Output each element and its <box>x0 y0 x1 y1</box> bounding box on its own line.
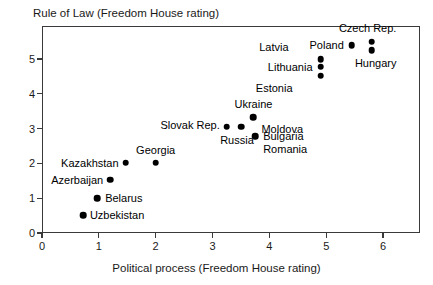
data-point-label: Georgia <box>136 144 175 155</box>
data-point-label: Hungary <box>355 58 397 69</box>
x-tick-label: 6 <box>380 240 386 252</box>
data-point <box>252 133 259 140</box>
data-point <box>122 159 129 166</box>
data-point-label: Kazakhstan <box>61 157 118 168</box>
data-point <box>368 38 375 45</box>
x-tick-label: 4 <box>266 240 272 252</box>
x-tick-label: 3 <box>209 240 215 252</box>
y-tick-mark <box>37 128 42 129</box>
data-point <box>223 124 230 131</box>
x-tick-mark <box>41 233 42 238</box>
x-tick-mark <box>382 233 383 238</box>
data-point <box>348 42 355 49</box>
data-point <box>94 195 101 202</box>
data-point <box>250 114 257 121</box>
chart-title: Rule of Law (Freedom House rating) <box>33 7 219 20</box>
y-tick-label: 1 <box>24 192 35 204</box>
data-point-label: Latvia <box>259 42 288 53</box>
data-point-label: Romania <box>263 144 307 155</box>
y-tick-mark <box>37 198 42 199</box>
data-point <box>317 56 324 63</box>
data-point-label: Estonia <box>256 82 293 93</box>
y-tick-label: 5 <box>24 53 35 65</box>
x-tick-mark <box>155 233 156 238</box>
data-point-label: Azerbaijan <box>51 174 103 185</box>
x-tick-label: 5 <box>323 240 329 252</box>
x-axis-label: Political process (Freedom House rating) <box>0 262 433 274</box>
y-tick-label: 3 <box>24 123 35 135</box>
y-tick-mark <box>37 58 42 59</box>
y-tick-label: 0 <box>24 227 35 239</box>
data-point <box>317 72 324 79</box>
y-tick-label: 4 <box>24 88 35 100</box>
x-tick-mark <box>98 233 99 238</box>
x-tick-label: 2 <box>153 240 159 252</box>
data-point <box>107 176 114 183</box>
data-point-label: Ukraine <box>234 99 272 110</box>
data-point <box>368 47 375 54</box>
data-point <box>317 63 324 70</box>
data-point-label: Slovak Rep. <box>160 119 219 130</box>
data-point <box>80 212 87 219</box>
y-tick-mark <box>37 163 42 164</box>
data-point-label: Lithuania <box>268 61 313 72</box>
data-point <box>238 124 245 131</box>
data-point-label: Bulgaria <box>263 131 303 142</box>
y-tick-mark <box>37 93 42 94</box>
x-tick-label: 1 <box>96 240 102 252</box>
x-tick-mark <box>212 233 213 238</box>
x-tick-mark <box>326 233 327 238</box>
y-tick-label: 2 <box>24 157 35 169</box>
x-tick-label: 0 <box>39 240 45 252</box>
data-point-label: Belarus <box>105 193 142 204</box>
scatter-chart: Rule of Law (Freedom House rating) 01234… <box>0 0 433 285</box>
y-tick-mark <box>37 232 42 233</box>
x-tick-mark <box>269 233 270 238</box>
data-point-label: Czech Rep. <box>339 22 396 33</box>
data-point-label: Uzbekistan <box>90 209 144 220</box>
data-point-label: Russia <box>220 134 254 145</box>
data-point-label: Poland <box>310 40 344 51</box>
data-point <box>152 159 159 166</box>
